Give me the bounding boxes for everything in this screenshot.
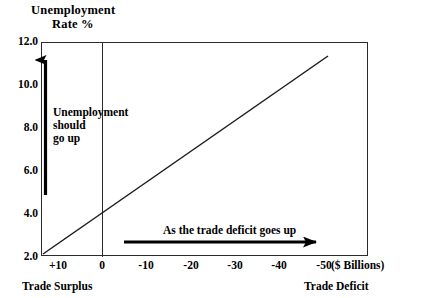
chart-figure: Unemployment Rate % 12.0 10.0 8.0 6.0 4.… [0,0,434,298]
trade-surplus-caption: Trade Surplus [22,280,92,292]
unemployment-should-go-up-label: Unemployment should go up [53,106,128,145]
x-tick-minus50: -50 [316,259,331,271]
x-tick-minus20: -20 [183,259,198,271]
trade-deficit-caption: Trade Deficit [304,280,369,292]
x-tick-0: 0 [99,259,105,271]
x-axis-tick-labels: +10 0 -10 -20 -30 -40 -50 ($ Billions) [0,0,434,298]
x-tick-minus40: -40 [271,259,286,271]
x-tick-minus30: -30 [227,259,242,271]
x-tick-minus10: -10 [138,259,153,271]
x-axis-unit-label: ($ Billions) [331,259,384,271]
as-trade-deficit-goes-up-label: As the trade deficit goes up [163,224,296,236]
x-tick-plus10: +10 [49,259,67,271]
